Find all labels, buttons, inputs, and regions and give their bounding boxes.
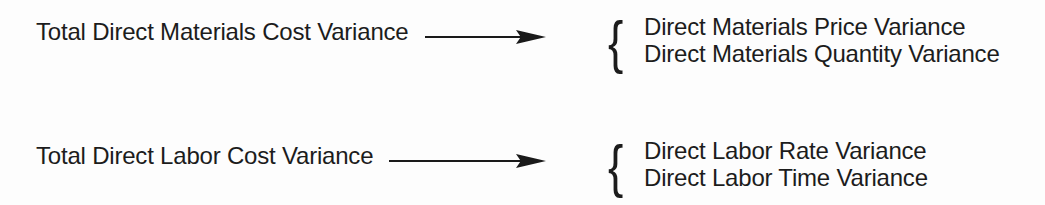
variance-row-labor: Total Direct Labor Cost Variance { Direc… xyxy=(0,136,1045,194)
variance-diagram: Total Direct Materials Cost Variance { D… xyxy=(0,0,1045,205)
left-brace-icon: { xyxy=(608,139,639,194)
component-list: Direct Labor Rate Variance Direct Labor … xyxy=(644,137,928,191)
variance-row-materials: Total Direct Materials Cost Variance { D… xyxy=(0,12,1045,70)
components-group: { Direct Materials Price Variance Direct… xyxy=(608,12,1045,68)
component-list: Direct Materials Price Variance Direct M… xyxy=(644,13,1000,67)
arrow-right-icon xyxy=(389,142,546,170)
arrow-shaft xyxy=(389,160,522,162)
component-variance-label: Direct Materials Quantity Variance xyxy=(644,40,1000,67)
arrow-right-icon xyxy=(425,18,547,46)
source-variance-label: Total Direct Materials Cost Variance xyxy=(36,18,409,46)
arrow-shaft xyxy=(425,36,523,38)
component-variance-label: Direct Labor Rate Variance xyxy=(644,137,928,164)
left-brace-icon: { xyxy=(608,15,639,70)
component-variance-label: Direct Labor Time Variance xyxy=(644,164,928,191)
component-variance-label: Direct Materials Price Variance xyxy=(644,13,1000,40)
components-group: { Direct Labor Rate Variance Direct Labo… xyxy=(608,136,1045,192)
source-variance-label: Total Direct Labor Cost Variance xyxy=(36,142,373,170)
